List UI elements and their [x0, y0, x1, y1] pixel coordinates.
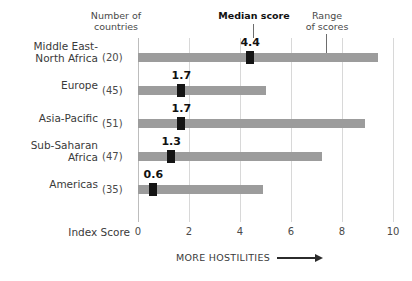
annotation-range-of-scores: Range of scores	[298, 10, 356, 32]
x-tick-label-8: 8	[339, 226, 345, 237]
range-bar	[138, 86, 266, 95]
range-bar	[138, 53, 378, 62]
chart-row: 1.3	[138, 137, 393, 170]
category-name: Asia-Pacific	[0, 112, 98, 124]
x-tick-label-2: 2	[186, 226, 192, 237]
category-name: Americas	[0, 178, 98, 190]
country-count: (35)	[102, 184, 123, 195]
annotation-median-score: Median score	[216, 10, 292, 21]
category-label-row: Americas(35)	[0, 170, 138, 203]
column-header-number-of-countries: Number of countries	[86, 10, 146, 32]
median-value-label: 4.4	[240, 36, 260, 49]
x-axis: 0246810	[138, 222, 393, 242]
chart-row: 1.7	[138, 104, 393, 137]
chart-row: 1.7	[138, 71, 393, 104]
x-tick-label-6: 6	[288, 226, 294, 237]
plot-area: 4.41.71.71.30.6	[138, 38, 393, 222]
median-marker	[246, 51, 254, 64]
country-count: (51)	[102, 118, 123, 129]
category-name: Sub-Saharan Africa	[0, 139, 98, 163]
median-value-label: 1.7	[172, 102, 192, 115]
x-tick-label-0: 0	[135, 226, 141, 237]
more-hostilities-label: MORE HOSTILITIES	[176, 252, 270, 263]
country-count: (45)	[102, 85, 123, 96]
median-value-label: 0.6	[144, 168, 164, 181]
more-hostilities-note: MORE HOSTILITIES	[176, 252, 323, 263]
country-count: (20)	[102, 52, 123, 63]
median-marker	[149, 183, 157, 196]
arrow-right-icon	[277, 253, 323, 262]
chart-row: 4.4	[138, 38, 393, 71]
median-marker	[167, 150, 175, 163]
x-axis-title: Index Score	[0, 226, 130, 238]
category-name: Middle East- North Africa	[0, 40, 98, 64]
range-bar	[138, 119, 365, 128]
category-label-column: Middle East- North Africa(20)Europe(45)A…	[0, 38, 138, 222]
median-marker	[177, 84, 185, 97]
x-tick-label-10: 10	[387, 226, 400, 237]
range-bar	[138, 152, 322, 161]
category-label-row: Europe(45)	[0, 71, 138, 104]
chart-container: Number of countries Median score Range o…	[0, 0, 412, 281]
category-label-row: Middle East- North Africa(20)	[0, 38, 138, 71]
x-tick-label-4: 4	[237, 226, 243, 237]
category-label-row: Asia-Pacific(51)	[0, 104, 138, 137]
country-count: (47)	[102, 151, 123, 162]
median-value-label: 1.7	[172, 69, 192, 82]
category-name: Europe	[0, 79, 98, 91]
median-marker	[177, 117, 185, 130]
category-label-row: Sub-Saharan Africa(47)	[0, 137, 138, 170]
median-value-label: 1.3	[161, 135, 181, 148]
chart-row: 0.6	[138, 170, 393, 203]
gridline-10	[393, 38, 394, 222]
